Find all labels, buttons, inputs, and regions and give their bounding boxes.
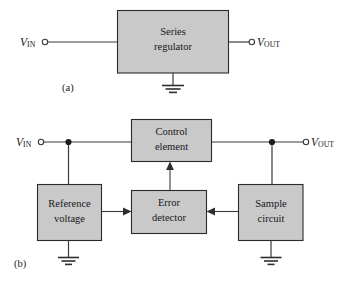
error-detector-label-line2: detector	[152, 212, 186, 223]
reference-voltage-label-line2: voltage	[54, 213, 85, 224]
part-a-input-label: VIN	[20, 35, 36, 49]
circuit-diagram: VIN Series regulator VOUT (a)	[0, 0, 343, 285]
part-a-ground-icon	[162, 73, 184, 92]
control-element-label-line1: Control	[155, 126, 187, 137]
part-a-output-sub: OUT	[264, 40, 280, 49]
part-a-input-sub: IN	[27, 40, 36, 49]
part-a-output-terminal-circle	[249, 39, 254, 44]
part-b-caption: (b)	[14, 258, 27, 270]
part-a-group: VIN Series regulator VOUT (a)	[20, 11, 280, 95]
reference-voltage-ground-icon	[58, 241, 79, 265]
error-detector-label-line1: Error	[158, 197, 181, 208]
part-b-input-terminal-circle	[38, 139, 43, 144]
part-b-output-terminal-circle	[303, 139, 308, 144]
part-b-output-junction-dot	[269, 139, 275, 145]
part-a-input-terminal-circle	[42, 39, 47, 44]
part-b-output-label: VOUT	[311, 135, 334, 149]
part-a-caption: (a)	[62, 82, 74, 94]
sample-circuit-ground-icon	[261, 241, 282, 265]
sample-circuit-label-line2: circuit	[258, 213, 285, 224]
sample-circuit-label-line1: Sample	[255, 198, 287, 209]
control-element-label-line2: element	[155, 141, 188, 152]
series-regulator-label-line1: Series	[160, 26, 186, 37]
part-a-output-label: VOUT	[257, 35, 280, 49]
reference-voltage-label-line1: Reference	[48, 198, 91, 209]
part-b-input-junction-dot	[65, 139, 71, 145]
arrow-reference-to-error	[102, 208, 132, 216]
part-b-group: VIN Control element VOUT Reference volta…	[14, 120, 334, 271]
figure-canvas: VIN Series regulator VOUT (a)	[0, 0, 343, 285]
part-b-output-sub: OUT	[318, 140, 334, 149]
part-b-input-sub: IN	[23, 140, 32, 149]
arrow-error-to-control	[166, 162, 174, 191]
part-b-input-label: VIN	[16, 135, 32, 149]
arrow-sample-to-error	[207, 208, 239, 216]
series-regulator-label-line2: regulator	[154, 41, 192, 52]
